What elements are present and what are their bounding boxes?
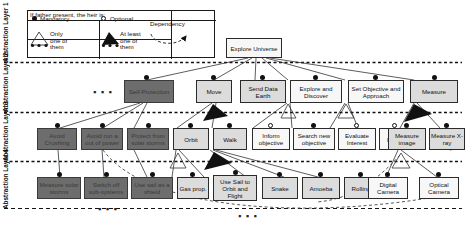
mandatory-marker	[313, 75, 318, 80]
mandatory-marker	[311, 123, 316, 128]
node-label: Explore Universe	[228, 45, 280, 52]
node-label: Optical Camera	[421, 181, 457, 195]
mandatory-marker	[233, 170, 238, 175]
mandatory-marker	[277, 172, 282, 177]
node-label: Send Data Earth	[242, 85, 284, 99]
node-set-objective-and-approach[interactable]: Set Objective and Approach	[348, 80, 404, 103]
mandatory-marker	[385, 172, 390, 177]
node-label: Search new objective	[295, 132, 333, 146]
layer-label-4: Abstraction Layer 4	[2, 163, 9, 209]
node-protect-from-solar-storms[interactable]: Protect from solar storms	[127, 128, 169, 150]
node-gas-prop[interactable]: Gas prop.	[177, 177, 209, 199]
mandatory-marker	[190, 172, 195, 177]
node-label: Evaluate Interest	[340, 132, 374, 146]
legend-optional-label: Optional	[110, 16, 133, 23]
node-label: Self-Protection	[126, 88, 172, 95]
node-amoeba[interactable]: Amoeba	[302, 177, 340, 199]
node-evaluate-interest[interactable]: Evaluate Interest	[338, 128, 376, 150]
node-explore-universe[interactable]: Explore Universe	[226, 38, 282, 58]
mandatory-marker	[436, 172, 441, 177]
node-explore-and-discover[interactable]: Explore and Discover	[290, 80, 342, 103]
mandatory-marker	[444, 123, 449, 128]
legend-mandatory-label: Mandatory	[40, 16, 69, 23]
node-label: Measure image	[390, 132, 424, 146]
node-self-protection[interactable]: Self-Protection	[124, 80, 174, 103]
node-label: Avoid run a out of power	[83, 132, 121, 146]
node-avoid-crushing[interactable]: Avoid Crushing	[37, 128, 77, 150]
mandatory-marker	[104, 172, 109, 177]
node-digital-camera[interactable]: Digital Camera	[368, 177, 408, 199]
mandatory-marker	[55, 123, 60, 128]
node-walk[interactable]: Walk	[213, 128, 247, 150]
mandatory-marker	[260, 75, 265, 80]
mandatory-marker	[188, 123, 193, 128]
node-label: Measure	[412, 88, 456, 95]
node-label: Use Sail to Orbit and Flight	[215, 178, 255, 199]
node-switch-off-sub-systems[interactable]: Switch off sub-systems	[84, 177, 128, 199]
node-label: Measure solar storms	[39, 181, 79, 195]
ellipsis-bottom-2: ▪ ▪ ▪	[238, 212, 258, 221]
node-measure-xray[interactable]: Measure X-ray	[429, 128, 465, 150]
node-snake[interactable]: Snake	[262, 177, 298, 199]
node-label: Protect from solar storms	[129, 132, 167, 146]
mandatory-marker	[432, 75, 437, 80]
optional-marker	[354, 123, 359, 128]
node-measure[interactable]: Measure	[410, 80, 458, 103]
mandatory-marker	[150, 172, 155, 177]
mandatory-marker	[404, 123, 409, 128]
node-send-data-earth[interactable]: Send Data Earth	[240, 80, 286, 103]
mandatory-marker	[373, 75, 378, 80]
ellipsis-layer2: ▪ ▪ ▪	[93, 88, 113, 97]
node-label: Explore and Discover	[292, 85, 340, 99]
node-label: Snake	[264, 185, 296, 192]
node-label: Switch off sub-systems	[86, 181, 126, 195]
mandatory-marker	[144, 75, 149, 80]
node-label: Set Objective and Approach	[350, 85, 402, 99]
optional-icon	[101, 16, 106, 21]
mandatory-marker	[211, 75, 216, 80]
node-label: Amoeba	[304, 185, 338, 192]
ellipsis-bottom: ▪ ▪ ▪	[98, 205, 118, 214]
node-label: Use sail as a shield	[133, 181, 171, 195]
mandatory-marker	[146, 123, 151, 128]
mandatory-marker	[318, 172, 323, 177]
mandatory-marker	[227, 123, 232, 128]
node-label: Inform objective	[254, 132, 288, 146]
node-optical-camera[interactable]: Optical Camera	[419, 177, 459, 199]
node-label: Walk	[215, 136, 245, 143]
node-label: Digital Camera	[370, 181, 406, 195]
node-use-sail-as-shield[interactable]: Use sail as a shield	[131, 177, 173, 199]
node-label: Avoid Crushing	[39, 132, 75, 146]
node-label: Gas prop.	[179, 185, 207, 192]
node-measure-image[interactable]: Measure image	[388, 128, 426, 150]
node-label: Move	[198, 88, 230, 95]
feature-model-diagram: Abstraction Layer 1 Abstraction Layer 2 …	[0, 0, 466, 226]
node-label: Orbit	[175, 136, 207, 143]
legend-only-one-label: Only one of them	[50, 31, 72, 51]
legend-at-least-one-label: At least one of them	[120, 31, 144, 51]
node-label: Measure X-ray	[431, 132, 463, 146]
mandatory-marker	[358, 172, 363, 177]
legend-dependency-label: Dependency	[150, 21, 185, 28]
node-orbit[interactable]: Orbit	[173, 128, 209, 150]
node-measure-solar-storms[interactable]: Measure solar storms	[37, 177, 81, 199]
optional-marker	[268, 123, 273, 128]
node-avoid-run-out-of-power[interactable]: Avoid run a out of power	[81, 128, 123, 150]
dependency-icon	[148, 33, 194, 49]
mandatory-marker	[57, 172, 62, 177]
node-use-sail-to-orbit-and-flight[interactable]: Use Sail to Orbit and Flight	[213, 175, 257, 201]
mandatory-marker	[100, 123, 105, 128]
mandatory-icon	[32, 16, 37, 21]
node-move[interactable]: Move	[196, 80, 232, 103]
node-search-new-objective[interactable]: Search new objective	[293, 128, 335, 150]
node-inform-objective[interactable]: Inform objective	[252, 128, 290, 150]
